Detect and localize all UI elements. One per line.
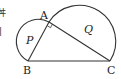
geometry-diagram: 丼 | A B C P Q	[0, 0, 121, 79]
label-point-c: C	[107, 64, 115, 77]
label-point-b: B	[23, 64, 31, 77]
label-point-a: A	[39, 9, 49, 22]
cropped-text-fragment-1: 丼	[0, 7, 6, 18]
cropped-text-fragment-2: |	[0, 26, 2, 36]
label-region-q: Q	[84, 23, 93, 36]
semicircle-q	[49, 5, 116, 61]
label-region-p: P	[25, 34, 34, 47]
segment-ac	[49, 22, 110, 61]
